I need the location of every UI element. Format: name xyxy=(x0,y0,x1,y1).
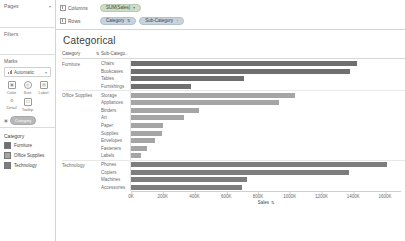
category-group-spacer xyxy=(94,91,101,159)
pill-sum-sales[interactable]: SUM(Sales) ▾ xyxy=(100,4,141,12)
bar-mark[interactable] xyxy=(131,162,387,167)
legend-item-office-supplies[interactable]: Office Supplies xyxy=(4,152,51,159)
bar-cell xyxy=(131,122,405,130)
subcategory-rows: ChairsBookcasesTablesFurnishings xyxy=(101,60,405,90)
legend-item-technology[interactable]: Technology xyxy=(4,162,51,169)
mark-type-selector[interactable]: Automatic ▾ xyxy=(4,67,51,77)
rows-shelf-label: Rows xyxy=(68,18,81,24)
x-axis-tick: 200K xyxy=(157,192,168,199)
marks-color-button[interactable]: ▣ Color xyxy=(4,80,19,96)
legend-swatch-icon xyxy=(4,162,11,169)
sort-icon[interactable]: ⇅ xyxy=(127,18,130,23)
bar-cell xyxy=(131,161,405,169)
marks-card-pill-label[interactable]: Category xyxy=(10,116,36,125)
main-area: Columns SUM(Sales) ▾ Rows Category xyxy=(56,0,405,241)
bar-mark[interactable] xyxy=(131,84,191,89)
category-group-label: Technology xyxy=(62,161,94,191)
subcategory-label: Envelopes xyxy=(101,137,131,145)
bar-mark[interactable] xyxy=(131,185,242,190)
marks-tooltip-button[interactable]: ☐ Tooltip xyxy=(20,97,35,113)
bar-mark[interactable] xyxy=(131,131,162,136)
rows-shelf-dropzone[interactable]: Category ⇅ Sub-Category ↑ xyxy=(100,17,401,25)
pages-shelf[interactable]: Pages ▾ xyxy=(0,0,55,28)
category-group-spacer xyxy=(94,161,101,191)
table-row[interactable]: Machines xyxy=(101,176,405,184)
table-row[interactable]: Bookcases xyxy=(101,68,405,76)
table-row[interactable]: Furnishings xyxy=(101,83,405,91)
pill-sub-category[interactable]: Sub-Category ↑ xyxy=(139,17,184,25)
chevron-down-icon[interactable]: ▾ xyxy=(45,70,47,75)
chevron-down-icon[interactable]: ▾ xyxy=(133,5,135,10)
bar-mark[interactable] xyxy=(131,93,295,98)
tooltip-icon: ☐ xyxy=(24,98,32,106)
marks-card-label: Marks xyxy=(4,58,51,64)
sort-ascending-icon[interactable]: ↑ xyxy=(176,18,178,23)
marks-label-button[interactable]: ▤ Label xyxy=(36,80,51,96)
columns-shelf-dropzone[interactable]: SUM(Sales) ▾ xyxy=(100,4,401,12)
bar-mark[interactable] xyxy=(131,153,141,158)
table-row[interactable]: Phones xyxy=(101,161,405,169)
bar-mark[interactable] xyxy=(131,115,184,120)
rows-shelf[interactable]: Rows Category ⇅ Sub-Category ↑ xyxy=(60,15,401,26)
bar-mark[interactable] xyxy=(131,170,349,175)
marks-detail-button[interactable]: ⚙ Detail xyxy=(4,97,19,113)
header-sort-icon[interactable]: ⇅ xyxy=(94,51,101,56)
bar-mark[interactable] xyxy=(131,100,279,105)
legend-label-office-supplies: Office Supplies xyxy=(14,153,44,158)
table-row[interactable]: Labels xyxy=(101,152,405,160)
bar-mark[interactable] xyxy=(131,138,155,143)
color-icon: ▣ xyxy=(8,81,16,89)
table-row[interactable]: Storage xyxy=(101,91,405,99)
table-row[interactable]: Appliances xyxy=(101,99,405,107)
subcategory-label: Copiers xyxy=(101,168,131,176)
table-row[interactable]: Accessories xyxy=(101,184,405,192)
table-row[interactable]: Tables xyxy=(101,75,405,83)
columns-shelf-label-wrap: Columns xyxy=(60,5,96,11)
bar-mark[interactable] xyxy=(131,123,163,128)
bar-cell xyxy=(131,176,405,184)
bar-mark[interactable] xyxy=(131,108,199,113)
table-row[interactable]: Copiers xyxy=(101,168,405,176)
bar-mark[interactable] xyxy=(131,177,247,182)
tableau-worksheet: Pages ▾ Filters Marks Automatic ▾ ▣ Colo… xyxy=(0,0,405,241)
chart-rows: FurnitureChairsBookcasesTablesFurnishing… xyxy=(62,60,405,191)
subcategory-label: Tables xyxy=(101,75,131,83)
bar-cell xyxy=(131,99,405,107)
marks-size-button[interactable]: ◎ Size xyxy=(20,80,35,96)
category-group: FurnitureChairsBookcasesTablesFurnishing… xyxy=(62,60,405,90)
pill-category[interactable]: Category ⇅ xyxy=(100,17,136,25)
x-axis-title-wrap: Sales ⇅ xyxy=(258,200,274,205)
bar-mark[interactable] xyxy=(131,76,244,81)
subcategory-label: Bookcases xyxy=(101,68,131,76)
marks-size-label: Size xyxy=(24,90,32,95)
bar-cell xyxy=(131,145,405,153)
category-group-label: Furniture xyxy=(62,60,94,90)
table-row[interactable]: Envelopes xyxy=(101,137,405,145)
subcategory-label: Art xyxy=(101,114,131,122)
page-title: Categorical xyxy=(63,35,405,46)
table-row[interactable]: Supplies xyxy=(101,129,405,137)
table-row[interactable]: Paper xyxy=(101,122,405,130)
marks-card-field[interactable]: ▣ Category xyxy=(4,116,51,125)
bar-mark[interactable] xyxy=(131,61,357,66)
bar-mark[interactable] xyxy=(131,146,147,151)
table-row[interactable]: Art xyxy=(101,114,405,122)
filters-shelf-label: Filters xyxy=(4,31,51,37)
legend-item-furniture[interactable]: Furniture xyxy=(4,142,51,149)
table-row[interactable]: Fasteners xyxy=(101,145,405,153)
bar-mark[interactable] xyxy=(131,69,350,74)
filters-shelf[interactable]: Filters xyxy=(0,28,55,55)
x-axis-tick: 600K xyxy=(221,192,232,199)
subcategory-label: Labels xyxy=(101,152,131,160)
columns-shelf[interactable]: Columns SUM(Sales) ▾ xyxy=(60,2,401,13)
bar-cell xyxy=(131,60,405,68)
legend-swatch-icon xyxy=(4,152,11,159)
table-row[interactable]: Binders xyxy=(101,107,405,115)
rows-grid-icon xyxy=(60,18,66,24)
axis-sort-icon[interactable]: ⇅ xyxy=(271,200,274,205)
x-axis-tick: 1400K xyxy=(347,192,360,199)
table-row[interactable]: Chairs xyxy=(101,60,405,68)
chevron-down-icon[interactable]: ▾ xyxy=(49,4,51,9)
x-axis-tick: 1200K xyxy=(315,192,328,199)
pill-sum-sales-label: SUM(Sales) xyxy=(106,5,130,10)
